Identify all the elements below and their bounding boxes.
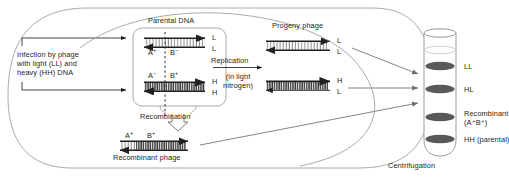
progeny-1-end-lower: L	[337, 47, 341, 56]
parental-top-right-marker: B−	[170, 48, 178, 57]
progeny-phage-2-strand	[266, 81, 330, 90]
tube-label-hh: HH (parental)	[464, 135, 509, 144]
progeny-1-end-upper: L	[337, 36, 341, 45]
tube-label-recombinant: Recombinant	[464, 109, 508, 118]
tube-label-hl: HL	[464, 85, 474, 94]
parental-strand-bottom	[144, 82, 205, 91]
recombinant-phage-label: Recombinant phage	[113, 153, 181, 162]
parental-top-left-marker: A+	[148, 48, 156, 57]
progeny-phage-label: Progeny phage	[272, 21, 323, 30]
tube-band-hh	[425, 135, 454, 144]
parental-dna-label: Parental DNA	[148, 16, 194, 25]
replication-sublabel: (in light nitrogen)	[212, 72, 264, 90]
infection-label: Infection by phage with light (LL) and h…	[17, 50, 79, 78]
tube-band-ll	[425, 62, 454, 71]
centrifuge-tube	[424, 29, 456, 156]
replication-label: Replication	[211, 56, 248, 65]
progeny-phage-1-strand	[266, 41, 330, 50]
tube-label-ll: LL	[464, 62, 472, 71]
progeny-2-end-upper: H	[337, 76, 342, 85]
recombinant-right-marker: B+	[147, 131, 155, 140]
parental-bottom-left-marker: A−	[148, 71, 156, 80]
progeny-2-end-lower: L	[337, 87, 341, 96]
parental-top-end-lower: L	[212, 44, 216, 53]
tube-label-recombinant-genotype: (A⁺B⁺)	[464, 118, 487, 127]
parental-top-end-upper: L	[212, 33, 216, 42]
recombinant-left-marker: A+	[125, 131, 133, 140]
recombination-label: Recombination	[140, 112, 190, 121]
centrifugation-label: Centrifugation	[388, 161, 435, 170]
parental-bottom-right-marker: B+	[170, 71, 178, 80]
tube-band-hl	[425, 85, 454, 94]
tube-band-recombinant	[425, 113, 454, 122]
recombinant-phage-strand	[120, 141, 188, 150]
